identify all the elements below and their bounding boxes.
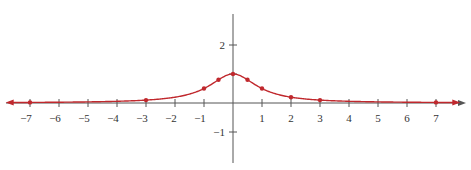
data-point [434,100,438,104]
x-tick-label: −7 [20,112,32,124]
x-tick-label: −1 [194,112,206,124]
x-tick-label: −5 [78,112,90,124]
data-point [318,98,322,102]
data-point [202,86,206,90]
x-tick-label: 3 [317,112,323,124]
axes [6,14,466,163]
x-tick-label: 7 [433,112,439,124]
data-point [216,78,220,82]
x-tick-label: 6 [404,112,410,124]
x-tick-label: 2 [288,112,294,124]
data-point [260,86,264,90]
ticks: −7−6−5−4−3−2−112345672−1 [20,39,439,138]
x-tick-label: 1 [259,112,265,124]
data-point [144,98,148,102]
data-point [28,100,32,104]
x-tick-label: −2 [165,112,177,124]
data-point [245,78,249,82]
x-axis-arrow-icon [458,100,466,106]
chart: −7−6−5−4−3−2−112345672−1 [0,0,471,170]
x-tick-label: 5 [375,112,381,124]
data-point [231,72,235,76]
x-tick-label: −3 [136,112,148,124]
y-tick-label: 2 [220,39,226,51]
x-tick-label: −4 [107,112,119,124]
data-point [289,95,293,99]
y-tick-label: −1 [213,126,225,138]
x-tick-label: 4 [346,112,352,124]
left-arrow-icon [6,100,14,106]
x-tick-label: −6 [49,112,61,124]
